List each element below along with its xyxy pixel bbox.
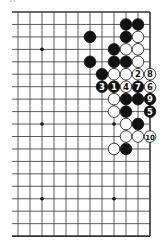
black-stone xyxy=(120,143,132,155)
white-stone xyxy=(108,143,120,155)
white-stone xyxy=(108,106,120,118)
black-stone xyxy=(108,56,120,68)
move-number: 7 xyxy=(135,82,141,92)
move-number: 8 xyxy=(147,69,153,79)
white-stone xyxy=(132,131,144,143)
white-stone xyxy=(120,131,132,143)
move-number: 9 xyxy=(147,94,153,104)
black-stone xyxy=(132,93,144,105)
hoshi-point xyxy=(40,48,44,52)
white-stone xyxy=(120,68,132,80)
black-stone xyxy=(120,31,132,43)
move-number: 4 xyxy=(123,82,129,92)
black-stone xyxy=(108,44,120,56)
hoshi-point xyxy=(112,122,116,126)
black-stone xyxy=(84,56,96,68)
move-number: 3 xyxy=(99,82,105,92)
black-stone xyxy=(132,19,144,31)
black-stone xyxy=(96,68,108,80)
white-stone xyxy=(132,56,144,68)
white-stone xyxy=(132,31,144,43)
white-stone xyxy=(120,118,132,130)
white-stone xyxy=(120,44,132,56)
white-stone xyxy=(132,44,144,56)
hoshi-point xyxy=(112,197,116,201)
move-number: 5 xyxy=(147,107,153,117)
go-board: 28314769510 xyxy=(0,0,161,247)
black-stone xyxy=(120,93,132,105)
move-number: 6 xyxy=(147,82,153,92)
white-stone xyxy=(108,93,120,105)
hoshi-point xyxy=(40,197,44,201)
black-stone xyxy=(120,19,132,31)
move-number: 10 xyxy=(145,134,155,142)
move-number: 1 xyxy=(111,82,117,92)
move-number: 2 xyxy=(135,69,141,79)
white-stone xyxy=(108,68,120,80)
black-stone xyxy=(120,56,132,68)
black-stone xyxy=(132,118,144,130)
black-stone xyxy=(84,31,96,43)
black-stone xyxy=(120,106,132,118)
hoshi-point xyxy=(40,122,44,126)
